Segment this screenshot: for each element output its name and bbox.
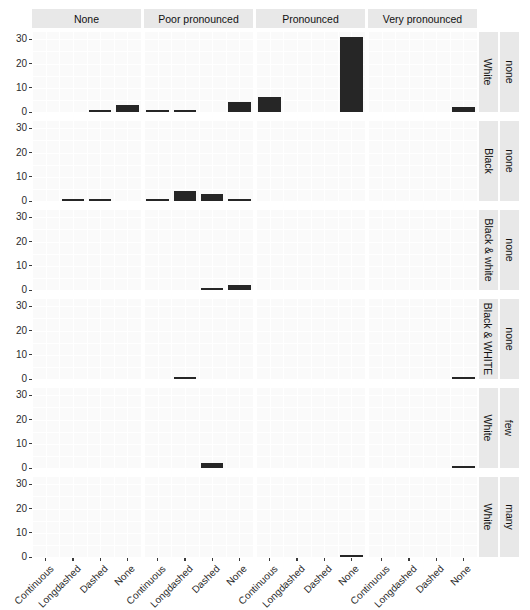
bar-r4-c1-2: [201, 463, 223, 468]
gridline-major: [256, 290, 365, 291]
x-tick-mark: [351, 558, 352, 561]
vgridline-minor: [199, 121, 200, 201]
y-tick-label: 20: [5, 237, 27, 247]
row-facet-outer-3: none: [500, 299, 519, 379]
vgridline-minor: [283, 388, 284, 468]
vgridline-major: [158, 121, 159, 201]
gridline-major: [256, 557, 365, 558]
vgridline-major: [324, 477, 325, 557]
vgridline-minor: [171, 210, 172, 290]
vgridline-minor: [450, 477, 451, 557]
row-facet-outer-1: none: [500, 121, 519, 201]
gridline-major: [256, 468, 365, 469]
vgridline-major: [239, 32, 240, 112]
vgridline-minor: [450, 388, 451, 468]
panel-r2-c3: [368, 210, 477, 290]
y-tick-mark: [29, 330, 32, 331]
x-tick-mark: [72, 558, 73, 561]
vgridline-minor: [171, 121, 172, 201]
vgridline-major: [436, 32, 437, 112]
vgridline-major: [212, 388, 213, 468]
y-tick-label: 30: [5, 390, 27, 400]
y-tick-mark: [29, 265, 32, 266]
row-facet-inner-2: Black & white: [479, 210, 498, 290]
bar-r0-c0-2: [89, 110, 111, 112]
vgridline-minor: [395, 388, 396, 468]
x-tick-mark: [184, 558, 185, 561]
vgridline-major: [382, 32, 383, 112]
x-tick-mark: [100, 558, 101, 561]
bar-r5-c2-3: [340, 555, 362, 557]
vgridline-major: [270, 388, 271, 468]
row-facet-inner-3: Black & WHITE: [479, 299, 498, 379]
vgridline-major: [185, 388, 186, 468]
bar-r1-c1-1: [174, 191, 196, 201]
vgridline-minor: [87, 388, 88, 468]
panel-r1-c2: [256, 121, 365, 201]
vgridline-minor: [253, 121, 254, 201]
vgridline-minor: [141, 32, 142, 112]
vgridline-major: [239, 388, 240, 468]
y-tick-label: 10: [5, 528, 27, 538]
vgridline-major: [100, 388, 101, 468]
gridline-major: [256, 379, 365, 380]
y-tick-mark: [29, 508, 32, 509]
vgridline-major: [463, 210, 464, 290]
vgridline-minor: [395, 121, 396, 201]
vgridline-major: [297, 32, 298, 112]
vgridline-minor: [311, 121, 312, 201]
vgridline-minor: [32, 121, 33, 201]
vgridline-major: [46, 32, 47, 112]
vgridline-major: [185, 210, 186, 290]
gridline-major: [368, 201, 477, 202]
vgridline-minor: [338, 477, 339, 557]
panel-r3-c3: [368, 299, 477, 379]
y-tick-mark: [29, 128, 32, 129]
vgridline-major: [436, 388, 437, 468]
bar-r0-c2-3: [340, 37, 362, 112]
y-tick-mark: [29, 290, 32, 291]
vgridline-minor: [144, 477, 145, 557]
vgridline-minor: [253, 32, 254, 112]
vgridline-minor: [59, 477, 60, 557]
bar-r4-c3-3: [452, 466, 474, 468]
vgridline-major: [212, 121, 213, 201]
vgridline-minor: [199, 32, 200, 112]
y-tick-label: 0: [5, 552, 27, 562]
vgridline-major: [351, 210, 352, 290]
vgridline-minor: [365, 32, 366, 112]
vgridline-minor: [368, 388, 369, 468]
vgridline-minor: [368, 121, 369, 201]
vgridline-minor: [365, 299, 366, 379]
gridline-major: [32, 112, 141, 113]
vgridline-major: [46, 210, 47, 290]
y-tick-mark: [29, 468, 32, 469]
vgridline-major: [463, 388, 464, 468]
row-facet-inner-4: White: [479, 388, 498, 468]
vgridline-minor: [311, 388, 312, 468]
vgridline-major: [297, 477, 298, 557]
vgridline-minor: [256, 477, 257, 557]
vgridline-major: [46, 388, 47, 468]
row-facet-outer-label: none: [504, 149, 516, 172]
y-tick-mark: [29, 176, 32, 177]
vgridline-major: [239, 477, 240, 557]
vgridline-minor: [114, 388, 115, 468]
vgridline-minor: [171, 388, 172, 468]
vgridline-minor: [365, 477, 366, 557]
vgridline-minor: [256, 121, 257, 201]
row-facet-outer-4: few: [500, 388, 519, 468]
vgridline-minor: [32, 32, 33, 112]
y-tick-label: 0: [5, 374, 27, 384]
vgridline-minor: [144, 121, 145, 201]
vgridline-major: [270, 210, 271, 290]
vgridline-major: [436, 299, 437, 379]
row-facet-inner-1: Black: [479, 121, 498, 201]
y-tick-mark: [29, 63, 32, 64]
vgridline-major: [409, 121, 410, 201]
vgridline-minor: [114, 32, 115, 112]
vgridline-major: [324, 388, 325, 468]
vgridline-minor: [199, 388, 200, 468]
vgridline-minor: [365, 210, 366, 290]
vgridline-major: [127, 121, 128, 201]
